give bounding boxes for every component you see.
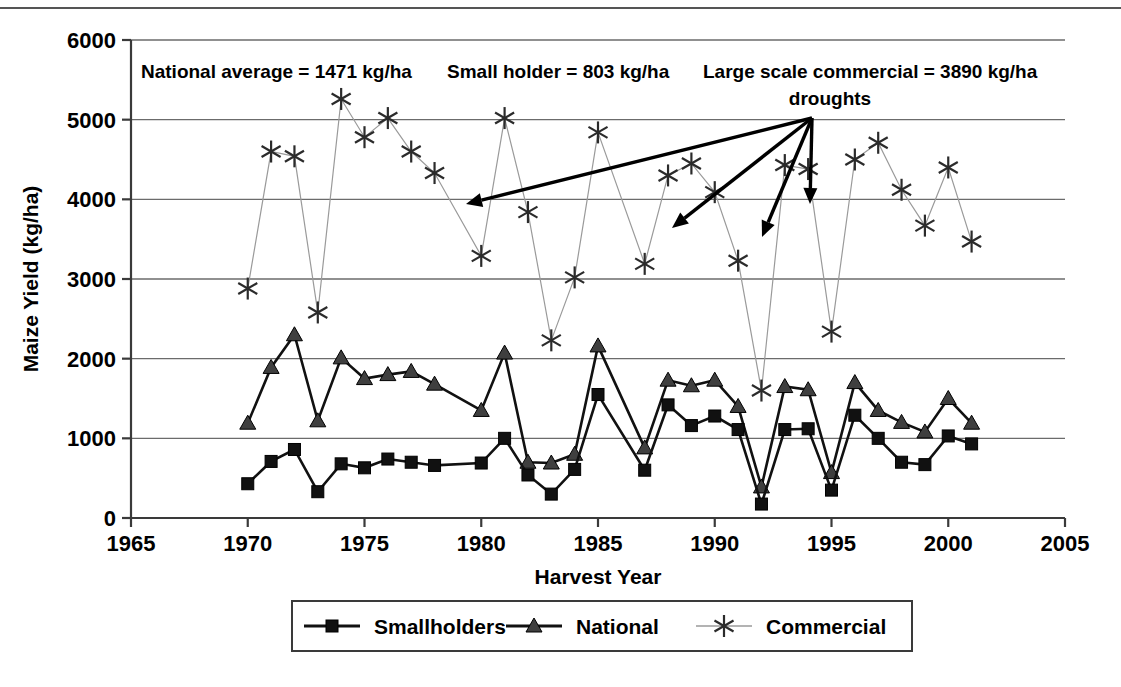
y-tick-label: 0 bbox=[104, 506, 116, 531]
marker-square bbox=[709, 410, 721, 422]
marker-square bbox=[475, 457, 487, 469]
marker-square bbox=[779, 424, 791, 436]
gridlines bbox=[131, 40, 1065, 438]
stat-annotations: National average = 1471 kg/haSmall holde… bbox=[141, 61, 1038, 109]
marker-square bbox=[405, 456, 417, 468]
marker-asterisk bbox=[565, 266, 584, 288]
series-markers bbox=[242, 389, 978, 511]
marker-asterisk bbox=[542, 329, 561, 351]
annotation-large-scale-commercial: Large scale commercial = 3890 kg/ha bbox=[703, 61, 1038, 82]
series-commercial bbox=[238, 88, 981, 402]
marker-square bbox=[872, 432, 884, 444]
x-tick-label: 2000 bbox=[924, 531, 973, 556]
x-tick-label: 1970 bbox=[223, 531, 272, 556]
marker-square bbox=[826, 484, 838, 496]
marker-square bbox=[919, 459, 931, 471]
y-tick-label: 6000 bbox=[67, 28, 116, 53]
marker-asterisk bbox=[402, 141, 421, 163]
marker-square bbox=[942, 430, 954, 442]
marker-triangle bbox=[707, 372, 723, 386]
marker-asterisk bbox=[378, 107, 397, 129]
marker-asterisk bbox=[869, 132, 888, 154]
marker-square bbox=[335, 458, 347, 470]
x-tick-label: 1995 bbox=[807, 531, 856, 556]
drought-arrow-head bbox=[803, 188, 817, 204]
marker-asterisk bbox=[845, 149, 864, 171]
marker-triangle bbox=[427, 376, 443, 390]
marker-triangle bbox=[777, 379, 793, 393]
drought-arrow-head bbox=[466, 193, 483, 207]
marker-triangle bbox=[240, 415, 256, 429]
legend-label: Smallholders bbox=[374, 615, 506, 638]
marker-square bbox=[288, 443, 300, 455]
y-tick-label: 2000 bbox=[67, 347, 116, 372]
marker-asterisk bbox=[308, 301, 327, 323]
series-line bbox=[248, 395, 972, 505]
marker-asterisk bbox=[285, 145, 304, 167]
marker-square bbox=[639, 464, 651, 476]
y-axis-title: Maize Yield (kg/ha) bbox=[19, 186, 42, 373]
marker-asterisk bbox=[822, 321, 841, 343]
annotation-small-holder: Small holder = 803 kg/ha bbox=[447, 61, 670, 82]
marker-asterisk bbox=[892, 179, 911, 201]
marker-square bbox=[849, 409, 861, 421]
marker-triangle bbox=[660, 372, 676, 386]
marker-asterisk bbox=[355, 126, 374, 148]
y-tick-label: 1000 bbox=[67, 426, 116, 451]
marker-square bbox=[499, 432, 511, 444]
marker-square bbox=[242, 478, 254, 490]
marker-asterisk bbox=[799, 158, 818, 180]
x-tick-label: 1975 bbox=[340, 531, 389, 556]
marker-triangle bbox=[894, 414, 910, 428]
x-axis-title: Harvest Year bbox=[535, 565, 662, 588]
marker-square bbox=[569, 463, 581, 475]
tick-labels: 0100020003000400050006000196519701975198… bbox=[67, 28, 1089, 556]
y-tick-label: 4000 bbox=[67, 187, 116, 212]
marker-asterisk bbox=[238, 278, 257, 300]
marker-square bbox=[755, 498, 767, 510]
legend-item-commercial[interactable]: Commercial bbox=[696, 615, 886, 638]
x-tick-label: 2005 bbox=[1041, 531, 1090, 556]
marker-asterisk bbox=[425, 162, 444, 184]
marker-square bbox=[685, 420, 697, 432]
marker-square bbox=[429, 459, 441, 471]
marker-square bbox=[896, 456, 908, 468]
series-smallholders bbox=[242, 389, 978, 511]
marker-square bbox=[732, 424, 744, 436]
marker-square bbox=[522, 469, 534, 481]
x-tick-label: 1980 bbox=[457, 531, 506, 556]
legend-label: National bbox=[576, 615, 659, 638]
marker-triangle bbox=[590, 338, 606, 352]
marker-square bbox=[265, 455, 277, 467]
marker-square bbox=[966, 438, 978, 450]
annotation-national-average: National average = 1471 kg/ha bbox=[141, 61, 412, 82]
marker-square bbox=[312, 486, 324, 498]
marker-asterisk bbox=[962, 231, 981, 253]
marker-asterisk bbox=[635, 253, 654, 275]
marker-triangle bbox=[847, 375, 863, 389]
marker-asterisk bbox=[472, 245, 491, 267]
series-line bbox=[248, 335, 972, 487]
marker-asterisk bbox=[729, 250, 748, 272]
droughts-label: droughts bbox=[789, 88, 871, 109]
series-markers bbox=[238, 88, 981, 402]
marker-triangle bbox=[333, 350, 349, 364]
x-tick-label: 1965 bbox=[107, 531, 156, 556]
marker-triangle bbox=[286, 327, 302, 341]
axes bbox=[122, 40, 1065, 527]
y-tick-label: 5000 bbox=[67, 108, 116, 133]
marker-square bbox=[592, 389, 604, 401]
marker-asterisk bbox=[659, 164, 678, 186]
marker-asterisk bbox=[262, 141, 281, 163]
drought-arrow-shaft bbox=[810, 118, 812, 188]
marker-asterisk bbox=[939, 156, 958, 178]
chart-svg: 0100020003000400050006000196519701975198… bbox=[0, 0, 1121, 687]
legend[interactable]: SmallholdersNationalCommercial bbox=[292, 601, 912, 651]
data-series bbox=[238, 88, 981, 510]
series-national bbox=[240, 327, 980, 493]
legend-label: Commercial bbox=[766, 615, 886, 638]
marker-square bbox=[382, 453, 394, 465]
marker-square bbox=[326, 620, 338, 632]
marker-asterisk bbox=[915, 215, 934, 237]
y-tick-label: 3000 bbox=[67, 267, 116, 292]
